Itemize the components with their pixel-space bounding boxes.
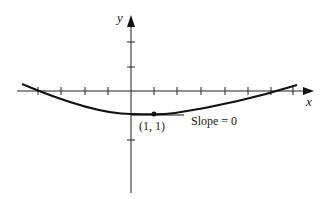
point-marker [152,112,157,117]
x-axis-label: x [305,94,312,109]
curve [22,84,297,114]
slope-label: Slope = 0 [191,114,237,128]
point-label: (1, 1) [139,119,165,133]
y-axis-arrow-icon [127,15,135,27]
diagram-canvas: y x (1, 1) Slope = 0 [0,0,330,199]
y-axis-label: y [115,10,123,25]
